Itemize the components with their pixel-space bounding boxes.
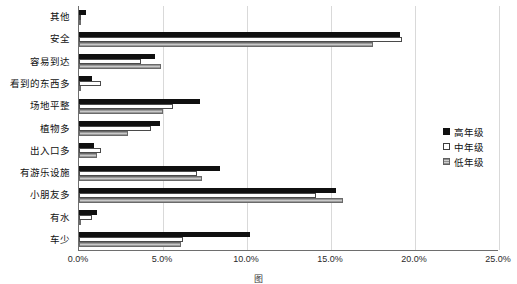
bar-group <box>79 229 498 251</box>
bar <box>79 86 81 91</box>
bar-group <box>79 73 498 95</box>
legend-swatch-icon-middle <box>443 143 450 150</box>
y-axis-tick-label: 有水 <box>50 212 70 223</box>
plot-area <box>78 6 498 251</box>
x-axis-labels: 0.0%5.0%10.0%15.0%20.0%25.0% <box>0 254 517 270</box>
y-axis-tick-label: 容易到达 <box>30 56 70 67</box>
legend-item-2[interactable]: 低年级 <box>443 154 513 169</box>
y-axis-tick-label: 场地平整 <box>30 100 70 111</box>
x-axis-tick-label: 0.0% <box>68 254 89 264</box>
bar <box>79 20 81 25</box>
y-axis-tick-label: 其他 <box>50 11 70 22</box>
bar-chart: 其他安全容易到达看到的东西多场地平整植物多出入口多有游乐设施小朋友多有水车少 0… <box>0 0 517 284</box>
bar <box>79 42 373 47</box>
bar <box>79 176 202 181</box>
x-axis-tick-label: 20.0% <box>401 254 427 264</box>
y-axis-tick-label: 小朋友多 <box>30 189 70 200</box>
bar <box>79 109 163 114</box>
x-axis-tick-label: 5.0% <box>152 254 173 264</box>
y-axis-labels: 其他安全容易到达看到的东西多场地平整植物多出入口多有游乐设施小朋友多有水车少 <box>0 6 74 251</box>
bar-group <box>79 206 498 228</box>
bar-group <box>79 6 498 28</box>
bar <box>79 215 92 220</box>
bar <box>79 64 161 69</box>
bar <box>79 220 81 225</box>
bar <box>79 153 97 158</box>
y-axis-tick-label: 植物多 <box>40 123 70 134</box>
y-axis-tick-label: 车少 <box>50 234 70 245</box>
x-axis-tick-label: 25.0% <box>485 254 511 264</box>
x-axis-tick-label: 15.0% <box>317 254 343 264</box>
bar-group <box>79 95 498 117</box>
bar <box>79 242 181 247</box>
figure-caption: 图 <box>0 274 517 284</box>
bar <box>79 81 101 86</box>
legend-label-senior: 高年级 <box>454 125 485 139</box>
bar-group <box>79 184 498 206</box>
y-axis-tick-label: 看到的东西多 <box>10 78 70 89</box>
x-axis-tick-label: 10.0% <box>233 254 259 264</box>
legend-item-0[interactable]: 高年级 <box>443 124 513 139</box>
bar-group <box>79 162 498 184</box>
legend-swatch-icon-senior <box>443 128 450 135</box>
bar-group <box>79 117 498 139</box>
legend-item-1[interactable]: 中年级 <box>443 139 513 154</box>
y-axis-tick-label: 安全 <box>50 33 70 44</box>
y-axis-tick-label: 有游乐设施 <box>20 167 70 178</box>
bar <box>79 131 128 136</box>
bar-group <box>79 140 498 162</box>
legend-label-junior: 低年级 <box>454 155 485 169</box>
y-axis-tick-label: 出入口多 <box>30 145 70 156</box>
legend-swatch-icon-junior <box>443 158 450 165</box>
bar <box>79 198 343 203</box>
legend-label-middle: 中年级 <box>454 140 485 154</box>
chart-legend: 高年级 中年级 低年级 <box>443 124 513 169</box>
bar-group <box>79 51 498 73</box>
bar-group <box>79 28 498 50</box>
